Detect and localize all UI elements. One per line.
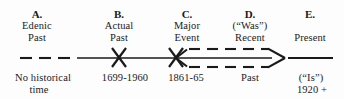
stage-e-label-line2: Present	[281, 32, 339, 43]
stage-c-label-line1: Major	[157, 20, 217, 31]
stage-letter-d: D.	[230, 9, 270, 20]
stage-a-label-line1: Edenic	[7, 20, 67, 31]
stage-d-label-line2: Recent	[220, 32, 280, 43]
stage-e-sublabel-line2: 1920 +	[282, 84, 342, 95]
stage-letter-b: B.	[99, 9, 139, 20]
stage-letter-e: E.	[290, 9, 330, 20]
stage-b-sublabel-line1: 1699-1960	[94, 72, 156, 83]
stage-letter-c: C.	[167, 9, 207, 20]
stage-a-sublabel-line1: No historical	[0, 72, 87, 83]
stage-e-sublabel-line1: (“Is”)	[282, 72, 340, 83]
stage-d-label-line1: (“Was”)	[218, 20, 282, 31]
stage-c-label-line2: Event	[157, 32, 217, 43]
stage-b-label-line2: Past	[89, 32, 149, 43]
stage-letter-a: A.	[17, 9, 57, 20]
timeline-diagram: A. B. C. D. E. Edenic Actual Major (“Was…	[0, 0, 344, 99]
stage-c-sublabel-line1: 1861-65	[157, 72, 215, 83]
stage-a-sublabel-line2: time	[9, 84, 69, 95]
stage-b-label-line1: Actual	[89, 20, 149, 31]
stage-d-sublabel-line1: Past	[222, 72, 278, 83]
stage-a-label-line2: Past	[7, 32, 67, 43]
